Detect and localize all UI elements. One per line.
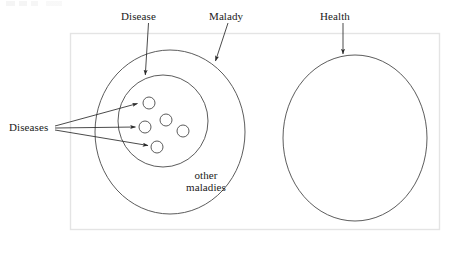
disease-dot-5 [151,141,163,153]
diseases-arrow-3 [55,130,148,146]
outer-frame-rectangle [71,34,440,230]
health-circle [283,55,427,221]
malady-arrow [216,23,229,61]
diseases-arrow-2 [55,127,136,128]
disease-dot-2 [160,114,172,126]
diseases-arrow-1 [55,104,138,127]
set-diagram-graphic [0,0,456,253]
label-diseases: Diseases [9,121,48,133]
label-other-maladies-line1: other [194,169,217,181]
label-malady: Malady [209,10,243,22]
disease-circle [118,75,208,167]
label-disease: Disease [121,10,156,22]
disease-arrow [145,23,148,75]
disease-dot-3 [139,121,151,133]
label-other-maladies: other maladies [175,169,237,194]
disease-dot-1 [143,97,155,109]
label-health: Health [320,10,350,22]
diagram-canvas: Disease Malady Health Diseases other mal… [0,0,456,253]
label-other-maladies-line2: maladies [186,181,226,193]
disease-dot-4 [177,125,189,137]
